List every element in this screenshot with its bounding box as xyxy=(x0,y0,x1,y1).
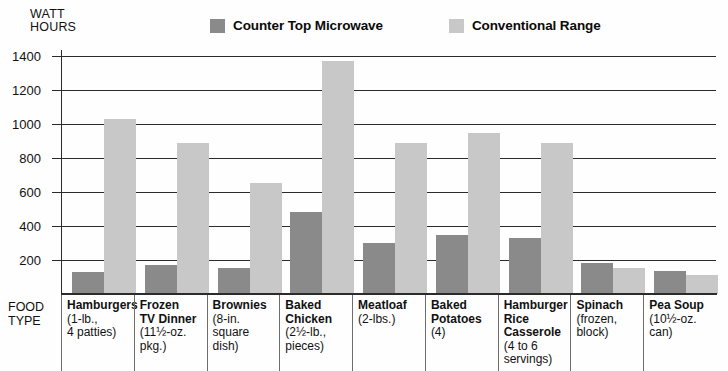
category-label: FrozenTV Dinner(11½-oz.pkg.) xyxy=(140,299,205,353)
y-axis-tick-label: 1400 xyxy=(12,49,41,64)
category-separator xyxy=(643,295,644,371)
category-name: Baked xyxy=(431,299,496,313)
category-name: Hamburgers xyxy=(67,299,132,313)
y-axis-tick-label: 600 xyxy=(19,185,41,200)
bar xyxy=(436,235,468,294)
category-label: Brownies(8-in.squaredish) xyxy=(213,299,278,353)
category-sublabel: block) xyxy=(576,326,641,340)
category-separator xyxy=(352,295,353,371)
bar xyxy=(613,268,645,294)
category-name: Hamburger xyxy=(504,299,569,313)
bar xyxy=(468,133,500,294)
bar-group xyxy=(654,56,718,294)
category-sublabel: dish) xyxy=(213,340,278,354)
category-name: Brownies xyxy=(213,299,278,313)
category-label: BakedChicken(2½-lb.,pieces) xyxy=(285,299,350,353)
y-axis-tick xyxy=(52,90,61,91)
bar xyxy=(581,263,613,294)
chart-legend: Counter Top MicrowaveConventional Range xyxy=(210,18,601,33)
category-label: Meatloaf(2-lbs.) xyxy=(358,299,423,326)
y-axis-tick xyxy=(52,192,61,193)
square-swatch-light-icon xyxy=(449,19,464,33)
category-separator xyxy=(570,295,571,371)
bar xyxy=(509,238,541,294)
y-axis-tick-label: 1000 xyxy=(12,117,41,132)
category-name: Spinach xyxy=(576,299,641,313)
category-name: Casserole xyxy=(504,326,569,340)
y-axis-tick-label: 800 xyxy=(19,151,41,166)
category-name: Pea Soup xyxy=(649,299,714,313)
category-label: Hamburgers(1-lb.,4 patties) xyxy=(67,299,132,340)
y-axis-title-line2: HOURS xyxy=(30,21,76,34)
y-axis-tick-label: 1200 xyxy=(12,83,41,98)
category-name: Potatoes xyxy=(431,313,496,327)
y-axis-title: WATT HOURS xyxy=(30,8,76,34)
bar xyxy=(177,143,209,294)
legend-entry: Conventional Range xyxy=(449,18,601,33)
category-separator xyxy=(279,295,280,371)
category-label: Pea Soup(10½-oz.can) xyxy=(649,299,714,340)
food-type-line2: TYPE xyxy=(8,315,44,329)
bar xyxy=(322,61,354,294)
category-name: Meatloaf xyxy=(358,299,423,313)
category-sublabel: (2½-lb., xyxy=(285,326,350,340)
category-axis: FOOD TYPE Hamburgers(1-lb.,4 patties)Fro… xyxy=(0,295,728,371)
bar-group xyxy=(509,56,573,294)
legend-label: Counter Top Microwave xyxy=(233,18,383,33)
bar xyxy=(250,183,282,294)
bar xyxy=(104,119,136,294)
category-label: Spinach(frozen,block) xyxy=(576,299,641,340)
category-separator xyxy=(134,295,135,371)
bar xyxy=(290,212,322,294)
bar-group xyxy=(436,56,500,294)
y-axis-tick-labels: 140012001000800600400200 xyxy=(0,56,53,294)
category-sublabel: pkg.) xyxy=(140,340,205,354)
bar xyxy=(218,268,250,294)
category-sublabel: servings) xyxy=(504,353,569,367)
food-type-label: FOOD TYPE xyxy=(8,301,44,328)
category-separator xyxy=(498,295,499,371)
food-type-line1: FOOD xyxy=(8,301,44,315)
category-label: HamburgerRiceCasserole(4 to 6servings) xyxy=(504,299,569,367)
watt-hours-bar-chart: WATT HOURS Counter Top MicrowaveConventi… xyxy=(0,0,728,371)
y-axis-tick xyxy=(52,158,61,159)
bar-group xyxy=(290,56,354,294)
category-sublabel: (1-lb., xyxy=(67,313,132,327)
y-axis-tick xyxy=(52,56,61,57)
category-name: Rice xyxy=(504,313,569,327)
bar-group xyxy=(218,56,282,294)
bar-group xyxy=(145,56,209,294)
bar-group xyxy=(363,56,427,294)
bar xyxy=(686,275,718,294)
category-separator xyxy=(207,295,208,371)
legend-entry: Counter Top Microwave xyxy=(210,18,383,33)
bar xyxy=(145,265,177,294)
category-sublabel: (4) xyxy=(431,326,496,340)
category-name: Frozen xyxy=(140,299,205,313)
category-name: TV Dinner xyxy=(140,313,205,327)
category-separator xyxy=(425,295,426,371)
bar-group xyxy=(581,56,645,294)
bar-group xyxy=(72,56,136,294)
category-name: Baked xyxy=(285,299,350,313)
square-swatch-dark-icon xyxy=(210,19,225,33)
bar xyxy=(541,143,573,294)
category-sublabel: can) xyxy=(649,326,714,340)
legend-label: Conventional Range xyxy=(472,18,601,33)
y-axis-tick xyxy=(52,226,61,227)
category-sublabel: (11½-oz. xyxy=(140,326,205,340)
category-sublabel: square xyxy=(213,326,278,340)
category-sublabel: pieces) xyxy=(285,340,350,354)
category-sublabel: 4 patties) xyxy=(67,326,132,340)
bar xyxy=(363,243,395,294)
bar xyxy=(395,143,427,294)
category-label: BakedPotatoes(4) xyxy=(431,299,496,340)
category-sublabel: (frozen, xyxy=(576,313,641,327)
category-sublabel: (8-in. xyxy=(213,313,278,327)
category-separator xyxy=(61,295,62,371)
y-axis-tick xyxy=(52,124,61,125)
y-axis-tick-label: 400 xyxy=(19,219,41,234)
category-sublabel: (10½-oz. xyxy=(649,313,714,327)
y-axis-tick xyxy=(52,260,61,261)
plot-area xyxy=(61,56,716,294)
